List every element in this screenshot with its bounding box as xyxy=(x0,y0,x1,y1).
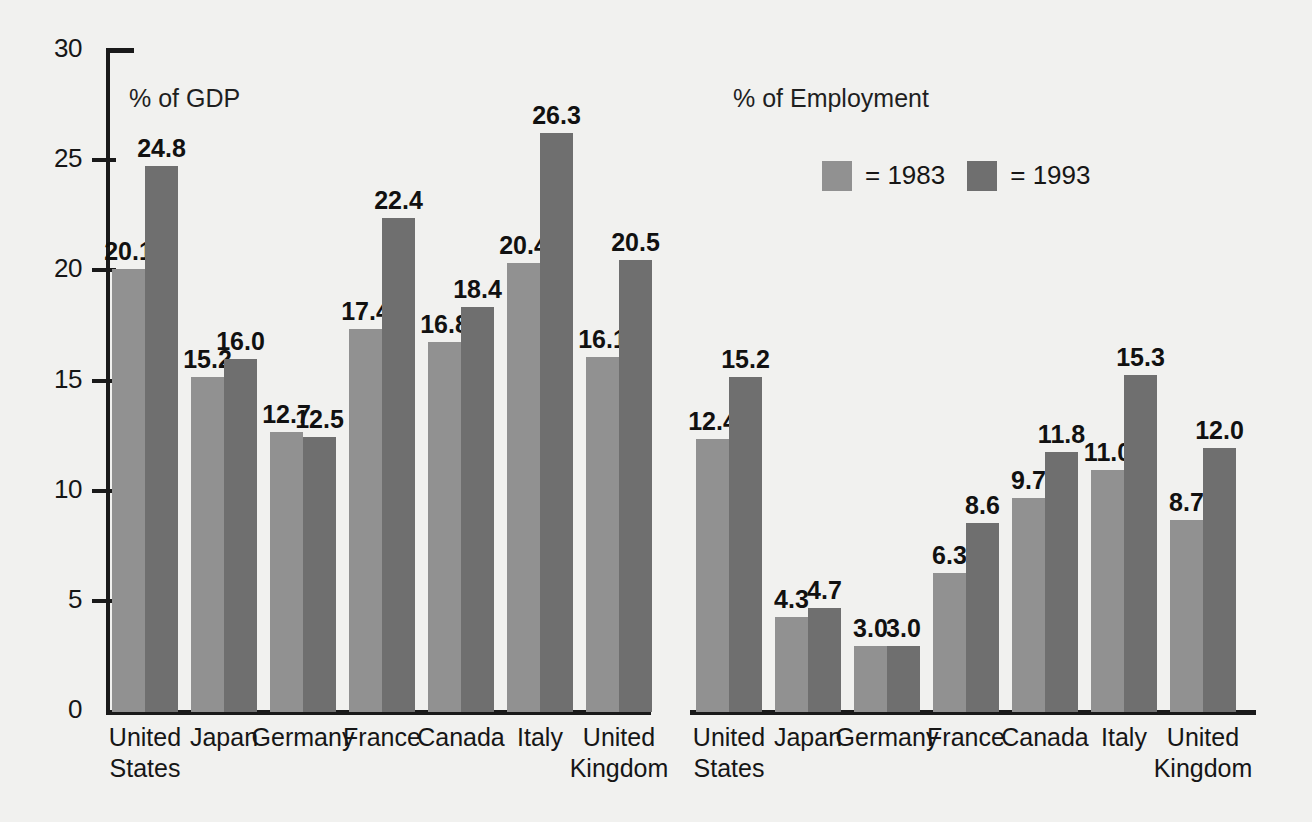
bar xyxy=(933,573,966,712)
bar-value-label: 18.4 xyxy=(445,275,511,304)
bar xyxy=(270,432,303,712)
bar xyxy=(729,377,762,712)
bar xyxy=(1091,470,1124,712)
bar xyxy=(191,377,224,712)
bar-value-label: 12.0 xyxy=(1187,416,1253,445)
bar xyxy=(303,437,336,712)
bar xyxy=(887,646,920,712)
bar xyxy=(1170,520,1203,712)
bar-value-label: 26.3 xyxy=(524,101,590,130)
bar-value-label: 12.5 xyxy=(287,405,353,434)
bar xyxy=(1045,452,1078,712)
bar-value-label: 22.4 xyxy=(366,186,432,215)
bar xyxy=(1203,448,1236,712)
bar xyxy=(1124,375,1157,712)
bars-layer: 20.124.815.216.012.712.517.422.416.818.4… xyxy=(0,0,1312,712)
bar xyxy=(382,218,415,712)
bar xyxy=(854,646,887,712)
bar xyxy=(540,133,573,712)
x-axis-category-label: United Kingdom xyxy=(1141,722,1265,784)
bar xyxy=(461,307,494,712)
bar xyxy=(808,608,841,712)
bar-value-label: 16.0 xyxy=(208,327,274,356)
bar xyxy=(112,269,145,712)
bar-value-label: 15.3 xyxy=(1108,343,1174,372)
bar-value-label: 15.2 xyxy=(713,345,779,374)
grouped-bar-chart: 051015202530 % of GDP % of Employment = … xyxy=(0,0,1312,822)
bar xyxy=(1012,498,1045,712)
bar xyxy=(428,342,461,712)
bar xyxy=(619,260,652,712)
bar-value-label: 3.0 xyxy=(871,614,937,643)
bar-value-label: 24.8 xyxy=(129,134,195,163)
bar-value-label: 20.5 xyxy=(603,228,669,257)
bar xyxy=(507,263,540,712)
bar xyxy=(586,357,619,712)
bar xyxy=(224,359,257,712)
bar xyxy=(349,329,382,712)
bar xyxy=(145,166,178,712)
bar xyxy=(775,617,808,712)
bar-value-label: 4.7 xyxy=(792,576,858,605)
bar xyxy=(966,523,999,712)
bar xyxy=(696,439,729,712)
x-axis-category-label: United Kingdom xyxy=(557,722,681,784)
